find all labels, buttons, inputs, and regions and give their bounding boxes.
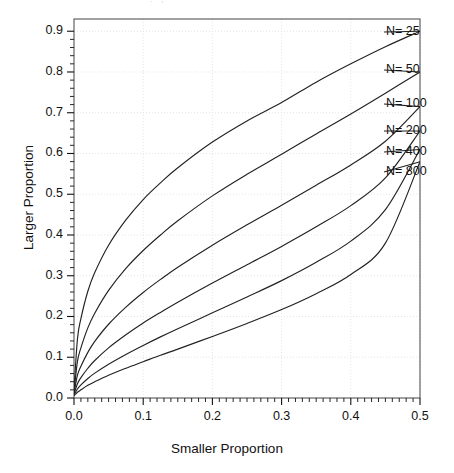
series-label-n-100: N= 100 bbox=[386, 96, 427, 110]
x-tick-label: 0.5 bbox=[404, 409, 436, 423]
chart-figure: . , Larger Proportion Smaller Proportion… bbox=[0, 0, 454, 473]
y-tick-label: 0.4 bbox=[18, 227, 63, 241]
x-tick-label: 0.3 bbox=[266, 409, 298, 423]
y-tick-label: 0.5 bbox=[18, 186, 63, 200]
series-line-n-400 bbox=[74, 149, 420, 394]
y-tick-label: 0.3 bbox=[18, 268, 63, 282]
x-tick-label: 0.1 bbox=[127, 409, 159, 423]
series-line-n-800 bbox=[74, 162, 420, 396]
series-label-n-400: N= 400 bbox=[386, 144, 427, 158]
y-tick-label: 0.8 bbox=[18, 64, 63, 78]
y-tick-label: 0.2 bbox=[18, 308, 63, 322]
series-label-n-50: N= 50 bbox=[386, 62, 420, 76]
x-axis-title: Smaller Proportion bbox=[0, 441, 454, 456]
series-label-n-200: N= 200 bbox=[386, 123, 427, 137]
series-line-n-50 bbox=[74, 72, 420, 392]
series-label-n-25: N= 25 bbox=[386, 24, 420, 38]
series-label-n-800: N= 800 bbox=[386, 164, 427, 178]
y-tick-label: 0.9 bbox=[18, 23, 63, 37]
y-tick-label: 0.1 bbox=[18, 349, 63, 363]
y-tick-label: 0.6 bbox=[18, 145, 63, 159]
x-tick-label: 0.2 bbox=[196, 409, 228, 423]
series-line-n-100 bbox=[74, 107, 420, 393]
series-line-n-25 bbox=[74, 31, 420, 390]
x-tick-label: 0.0 bbox=[58, 409, 90, 423]
y-tick-label: 0.7 bbox=[18, 105, 63, 119]
x-tick-label: 0.4 bbox=[335, 409, 367, 423]
y-tick-label: 0.0 bbox=[18, 390, 63, 404]
